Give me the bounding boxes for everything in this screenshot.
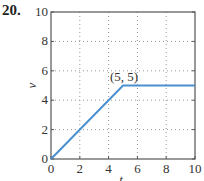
- x-tick-label: 2: [77, 161, 84, 176]
- data-line: [51, 86, 195, 160]
- x-tick-label: 4: [105, 161, 112, 176]
- x-axis-label: t: [119, 172, 123, 181]
- y-tick-label: 10: [35, 4, 48, 19]
- y-tick-label: 6: [42, 63, 49, 78]
- y-axis-label: v: [24, 82, 39, 88]
- y-tick-label: 4: [42, 92, 49, 107]
- x-tick-label: 6: [134, 161, 141, 176]
- velocity-chart: 02468100246810tv(5, 5): [0, 0, 204, 181]
- x-tick-label: 10: [189, 161, 202, 176]
- x-tick-label: 0: [48, 161, 55, 176]
- x-tick-label: 8: [163, 161, 170, 176]
- y-tick-label: 0: [42, 151, 49, 166]
- point-annotation: (5, 5): [110, 69, 138, 84]
- y-tick-label: 2: [42, 122, 49, 137]
- y-tick-label: 8: [42, 33, 49, 48]
